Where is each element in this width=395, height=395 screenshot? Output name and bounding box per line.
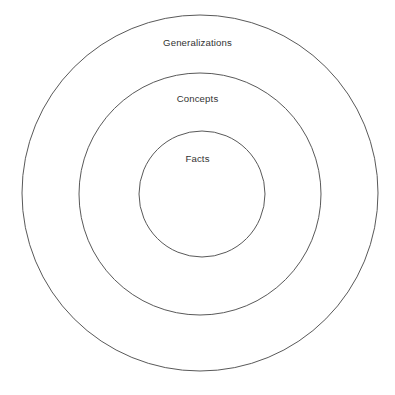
middle-ring-label: Concepts	[0, 93, 395, 105]
inner-ring-label: Facts	[0, 153, 395, 165]
concentric-circles-diagram: Generalizations Concepts Facts	[0, 0, 395, 395]
diagram-canvas	[0, 0, 395, 395]
inner-circle-facts	[139, 131, 265, 257]
outer-ring-label: Generalizations	[0, 37, 395, 49]
